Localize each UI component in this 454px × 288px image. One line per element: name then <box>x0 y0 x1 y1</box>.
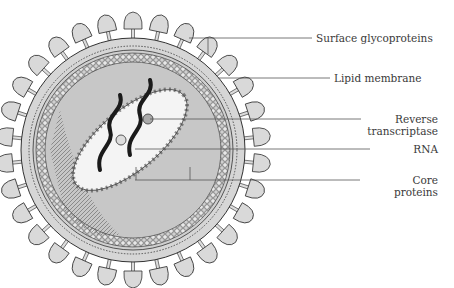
label-lipid-membrane: Lipid membrane <box>334 72 422 84</box>
glycoprotein-spike <box>241 127 271 148</box>
label-surface-glycoproteins: Surface glycoproteins <box>316 32 433 44</box>
label-line: transcriptase <box>367 125 438 137</box>
label-line: Core <box>394 174 438 186</box>
hiv-diagram: Surface glycoproteins Lipid membrane Rev… <box>0 0 454 288</box>
glycoprotein-spike <box>124 12 142 40</box>
label-rna: RNA <box>413 143 438 155</box>
glycoprotein-spike <box>124 260 142 288</box>
label-reverse-transcriptase: Reverse transcriptase <box>367 113 438 137</box>
label-line: Reverse <box>367 113 438 125</box>
label-core-proteins: Core proteins <box>394 174 438 198</box>
label-line: proteins <box>394 186 438 198</box>
glycoprotein-spike <box>241 152 271 173</box>
